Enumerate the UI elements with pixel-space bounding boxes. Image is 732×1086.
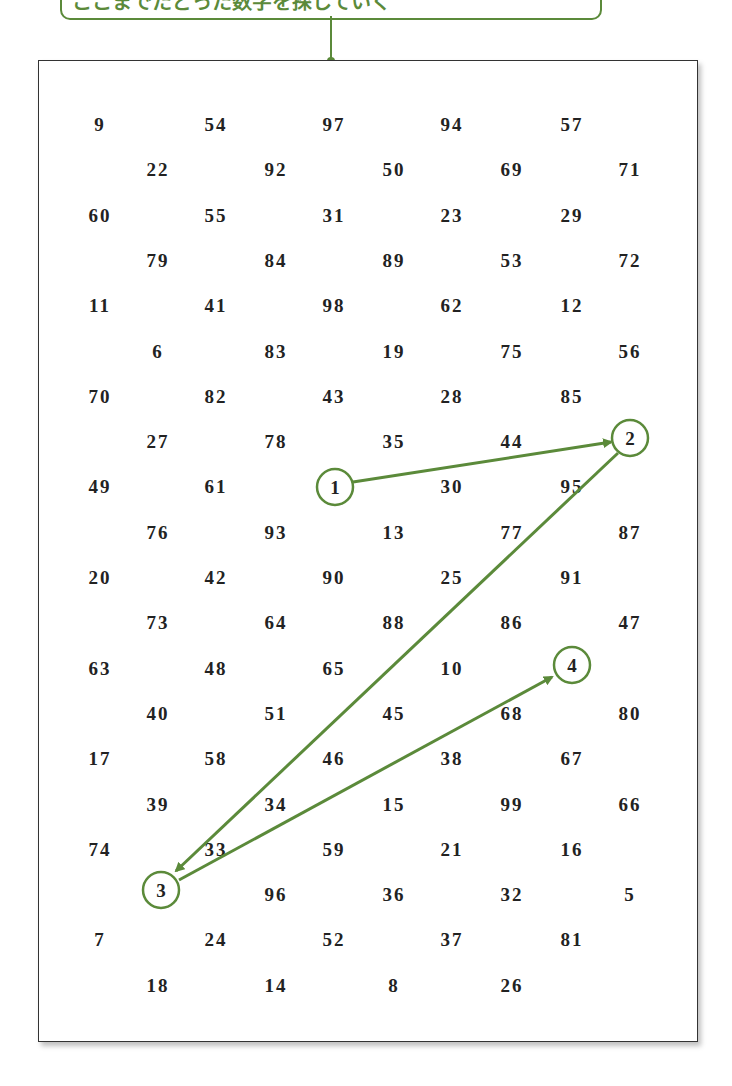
circled-step-label: 2 [625, 428, 635, 449]
arrow-1-to-2 [353, 442, 611, 482]
arrow-3-to-4 [179, 677, 552, 880]
arrow-2-to-3 [176, 453, 618, 871]
circled-step-label: 4 [567, 655, 577, 676]
path-overlay: 1234 [0, 0, 732, 1086]
circled-step-label: 1 [330, 477, 340, 498]
circled-step-label: 3 [156, 880, 166, 901]
